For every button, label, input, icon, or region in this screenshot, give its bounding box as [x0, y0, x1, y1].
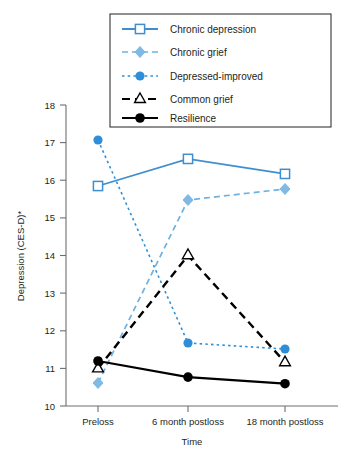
data-point-depressed-improved-18-month: [280, 344, 289, 353]
legend: Chronic depression Chronic grief Depress…: [110, 14, 331, 127]
data-point-chronic-grief-preloss: [93, 378, 103, 389]
x-tick-label-18-month: 18 month postloss: [246, 416, 323, 427]
x-tick-label-6-month: 6 month postloss: [152, 416, 224, 427]
legend-item-common-grief[interactable]: Common grief: [122, 93, 233, 105]
legend-label-chronic-grief: Chronic grief: [170, 47, 227, 58]
legend-label-chronic-depression: Chronic depression: [170, 24, 256, 35]
data-point-depressed-improved-preloss: [93, 135, 102, 144]
y-tick-label-18: 18: [44, 100, 55, 111]
legend-label-common-grief: Common grief: [170, 94, 233, 105]
legend-marker-open-square-icon: [135, 24, 144, 33]
data-point-chronic-depression-18-month: [280, 169, 289, 178]
series-line-chronic-grief: [98, 189, 285, 383]
y-tick-label-10: 10: [44, 401, 55, 412]
data-point-resilience-6-month: [183, 372, 193, 382]
data-point-chronic-depression-6-month: [183, 154, 192, 163]
y-tick-label-17: 17: [44, 137, 55, 148]
series-line-common-grief: [98, 256, 285, 369]
y-tick-label-12: 12: [44, 325, 55, 336]
y-tick-label-11: 11: [45, 363, 55, 374]
data-point-resilience-18-month: [280, 379, 290, 389]
legend-label-resilience: Resilience: [170, 113, 217, 124]
x-tick-label-preloss: Preloss: [82, 416, 114, 427]
series-line-depressed-improved: [98, 140, 285, 349]
legend-label-depressed-improved: Depressed-improved: [170, 71, 263, 82]
legend-marker-filled-circle-blue-icon: [135, 71, 144, 80]
data-point-common-grief-6-month: [182, 249, 193, 259]
x-axis-ticks: Preloss 6 month postloss 18 month postlo…: [82, 406, 324, 427]
figure-container: 18 17 16 15 14 13 12 11 10 Preloss 6 mon…: [0, 0, 345, 453]
x-axis-title: Time: [182, 436, 203, 447]
y-tick-label-15: 15: [44, 212, 55, 223]
data-point-chronic-depression-preloss: [93, 181, 102, 190]
y-tick-label-14: 14: [44, 250, 55, 261]
data-point-resilience-preloss: [93, 356, 103, 366]
data-point-depressed-improved-6-month: [183, 338, 192, 347]
y-axis-ticks: 18 17 16 15 14 13 12 11 10: [44, 100, 66, 412]
series-depressed-improved: [93, 135, 289, 353]
axes: [66, 105, 338, 406]
data-point-chronic-grief-18-month: [280, 184, 290, 195]
y-tick-label-13: 13: [44, 288, 55, 299]
y-axis-title: Depression (CES-D)*: [15, 211, 26, 302]
series-chronic-depression: [93, 154, 289, 190]
series-common-grief: [93, 249, 291, 372]
data-point-chronic-grief-6-month: [183, 195, 193, 206]
legend-item-chronic-depression[interactable]: Chronic depression: [122, 24, 256, 35]
depression-trajectory-chart: 18 17 16 15 14 13 12 11 10 Preloss 6 mon…: [0, 0, 345, 453]
legend-marker-filled-circle-black-icon: [135, 113, 145, 123]
series-resilience: [93, 356, 290, 388]
data-point-common-grief-18-month: [280, 356, 291, 366]
series-chronic-grief: [93, 184, 290, 389]
y-tick-label-16: 16: [44, 175, 55, 186]
